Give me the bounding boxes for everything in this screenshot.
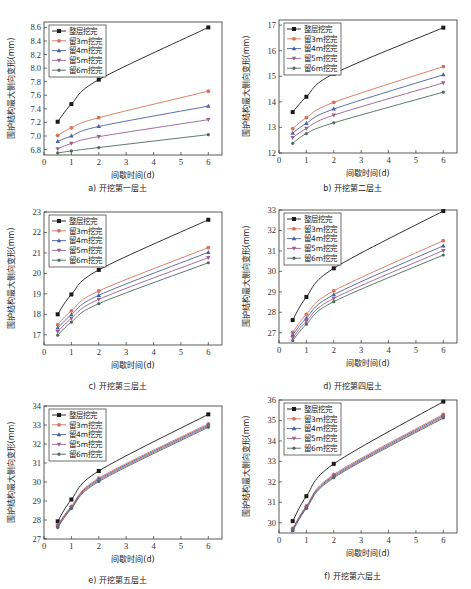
data-point (69, 292, 73, 296)
y-tick-label: 22 (33, 227, 42, 237)
legend-label: 留3m挖完 (304, 34, 338, 44)
series-5 (56, 133, 210, 155)
series-line (293, 255, 444, 341)
legend-label: 留3m挖完 (69, 420, 103, 430)
data-point (206, 25, 210, 29)
data-point (291, 142, 294, 145)
data-point (56, 120, 60, 124)
legend-label: 留6m挖完 (304, 63, 338, 73)
legend-label: 留5m挖完 (69, 55, 103, 65)
legend-label: 留5m挖完 (69, 245, 103, 255)
chart-svg: 0123456121314151617间歇时间(d)围护结构最大侧向变形(mm)… (235, 0, 470, 195)
data-point (206, 89, 210, 93)
x-tick-label: 1 (304, 155, 308, 165)
y-tick-label: 31 (268, 497, 277, 507)
data-point (291, 110, 295, 114)
x-tick-label: 3 (124, 347, 128, 357)
y-tick-label: 30 (268, 266, 277, 276)
chart-panel-d: 012345627282930313233间歇时间(d)围护结构最大侧向变形(m… (235, 195, 470, 390)
data-point (304, 121, 308, 125)
legend-label: 留6m挖完 (304, 443, 338, 453)
x-axis-title: 间歇时间(d) (111, 170, 154, 180)
data-point (304, 116, 308, 120)
legend-marker (292, 67, 295, 70)
x-tick-label: 5 (179, 541, 183, 551)
y-tick-label: 30 (33, 477, 42, 487)
y-tick-label: 27 (33, 534, 42, 544)
series-5 (56, 261, 210, 337)
x-tick-label: 3 (124, 541, 128, 551)
chart-caption: c) 开挖第三层土 (0, 380, 235, 391)
data-point (70, 507, 73, 510)
legend-label: 留4m挖完 (304, 43, 338, 53)
legend: 整层挖完留3m挖完留4m挖完留5m挖完留6m挖完 (284, 23, 341, 75)
legend-marker (57, 39, 61, 43)
y-tick-label: 31 (33, 458, 42, 468)
series-2 (56, 89, 210, 137)
data-point (56, 151, 59, 154)
legend-label: 留5m挖完 (69, 439, 103, 449)
y-tick-label: 7.2 (30, 117, 41, 127)
y-tick-label: 6.8 (30, 145, 41, 155)
x-tick-label: 5 (414, 345, 418, 355)
x-tick-label: 5 (414, 155, 418, 165)
legend-label: 留5m挖完 (304, 53, 338, 63)
data-point (207, 426, 210, 429)
y-tick-label: 16 (268, 46, 277, 56)
series-line (293, 75, 444, 133)
data-point (56, 133, 60, 137)
legend-label: 整层挖完 (69, 216, 98, 226)
data-point (332, 100, 336, 104)
data-point (206, 250, 210, 254)
y-tick-label: 32 (268, 477, 277, 487)
y-axis-title: 围护结构最大侧向变形(mm) (6, 38, 16, 140)
legend-label: 留3m挖完 (69, 226, 103, 236)
y-tick-label: 19 (33, 289, 42, 299)
data-point (56, 526, 59, 529)
x-tick-label: 0 (42, 347, 46, 357)
data-point (441, 65, 445, 69)
data-point (97, 480, 100, 483)
legend-label: 整层挖完 (304, 214, 333, 224)
x-axis-title: 间歇时间(d) (346, 168, 389, 178)
legend-marker (292, 257, 295, 260)
y-tick-label: 32 (33, 439, 42, 449)
x-tick-label: 5 (179, 347, 183, 357)
legend-label: 留6m挖完 (69, 255, 103, 265)
data-point (207, 133, 210, 136)
y-tick-label: 8.2 (30, 50, 41, 60)
y-axis-title: 围护结构最大侧向变形(mm) (6, 228, 16, 330)
data-point (206, 218, 210, 222)
x-tick-label: 6 (206, 541, 210, 551)
data-point (70, 149, 73, 152)
legend-label: 留4m挖完 (304, 423, 338, 433)
y-tick-label: 15 (268, 71, 277, 81)
chart-panel-b: 0123456121314151617间歇时间(d)围护结构最大侧向变形(mm)… (235, 0, 470, 195)
data-point (97, 289, 101, 293)
x-tick-label: 2 (332, 535, 336, 545)
legend-label: 留4m挖完 (69, 45, 103, 55)
series-line (58, 135, 209, 153)
x-tick-label: 2 (97, 347, 101, 357)
legend-marker (57, 413, 61, 417)
legend-marker (292, 227, 296, 231)
data-point (305, 132, 308, 135)
legend-label: 留3m挖完 (304, 414, 338, 424)
y-tick-label: 7.0 (30, 131, 41, 141)
y-tick-label: 28 (268, 307, 277, 317)
data-point (97, 268, 101, 272)
y-tick-label: 36 (268, 395, 277, 405)
x-tick-label: 6 (441, 535, 445, 545)
y-tick-label: 34 (33, 401, 42, 411)
series-line (58, 258, 209, 332)
y-tick-label: 8.0 (30, 63, 41, 73)
x-tick-label: 4 (386, 155, 391, 165)
series-line (58, 263, 209, 335)
data-point (441, 239, 445, 243)
y-axis-title: 围护结构最大侧向变形(mm) (241, 226, 251, 328)
data-point (332, 266, 336, 270)
chart-caption: b) 开挖第二层土 (235, 182, 470, 193)
data-point (206, 246, 210, 250)
x-tick-label: 4 (151, 347, 156, 357)
x-tick-label: 3 (124, 157, 128, 167)
